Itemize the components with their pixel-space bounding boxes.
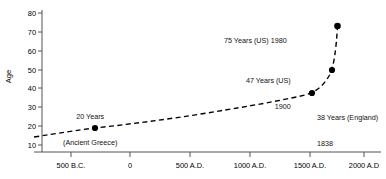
- y-tick-label-20: 20: [20, 122, 36, 131]
- annotation-ancient-greece: 20 Years (Ancient Greece): [63, 96, 117, 165]
- data-point-markers: [92, 23, 341, 131]
- y-tick-label-50: 50: [20, 66, 36, 75]
- annotation-us-1980-line1: 75 Years (US) 1980: [224, 37, 287, 46]
- y-tick-label-70: 70: [20, 28, 36, 37]
- annotation-england-1838-line1: 38 Years (England): [317, 114, 378, 123]
- annotation-ancient-greece-line2: (Ancient Greece): [63, 139, 117, 148]
- data-point-england-1838: [309, 90, 315, 96]
- y-tick-label-60: 60: [20, 47, 36, 56]
- x-tick-label-0: 0: [115, 161, 145, 170]
- data-point-us-1900: [329, 67, 335, 73]
- annotation-england-1838-line2: 1838: [317, 140, 378, 149]
- life-expectancy-chart: Age 80 70 60 50 40 30 20 10 500 B.C. 0 5…: [0, 0, 386, 179]
- annotation-us-1900-line1: 47 Years (US): [246, 77, 291, 86]
- y-tick-label-10: 10: [20, 141, 36, 150]
- y-tick-label-40: 40: [20, 84, 36, 93]
- y-tick-label-30: 30: [20, 103, 36, 112]
- annotation-us-1900: 47 Years (US) 1900: [246, 60, 291, 129]
- y-axis-ticks: [38, 13, 42, 145]
- annotation-us-1900-line2: 1900: [246, 103, 291, 112]
- x-tick-label-1000ad: 1000 A.D.: [218, 161, 282, 170]
- annotation-england-1838: 38 Years (England) 1838: [317, 97, 378, 166]
- x-tick-label-500ad: 500 A.D.: [160, 161, 220, 170]
- data-point-us-1980: [334, 23, 341, 30]
- annotation-us-1980: 75 Years (US) 1980: [224, 20, 287, 63]
- annotation-ancient-greece-line1: 20 Years: [63, 113, 117, 122]
- y-axis-title: Age: [4, 61, 13, 93]
- y-tick-label-80: 80: [20, 9, 36, 18]
